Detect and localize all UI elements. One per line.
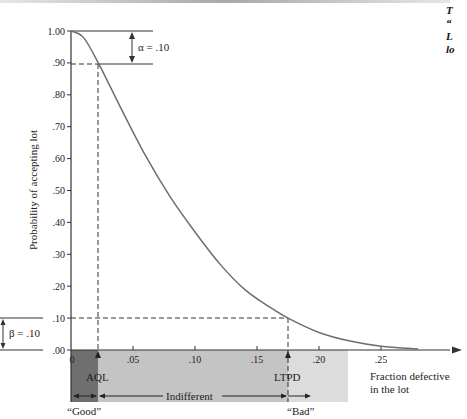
x-tick-label: .05 bbox=[127, 354, 140, 365]
y-tick-label: .80 bbox=[53, 89, 66, 100]
x-tick-label: .25 bbox=[375, 354, 388, 365]
x-tick-label: 0 bbox=[70, 354, 75, 365]
x-axis-arrow-icon bbox=[452, 347, 462, 354]
x-axis-title-line1: Fraction defective bbox=[370, 370, 450, 382]
y-tick-label: .00 bbox=[53, 345, 66, 356]
y-tick-label: .60 bbox=[53, 153, 66, 164]
y-tick-label: .20 bbox=[53, 281, 66, 292]
bad-label: “Bad” bbox=[287, 405, 315, 417]
x-tick-label: .10 bbox=[189, 354, 202, 365]
beta-label: β = .10 bbox=[9, 327, 41, 339]
beta-arrow-down-icon bbox=[1, 343, 6, 349]
y-tick-label: .90 bbox=[53, 57, 66, 68]
good-label: “Good” bbox=[67, 405, 101, 417]
x-tick-label: .20 bbox=[313, 354, 326, 365]
y-tick-label: .40 bbox=[53, 217, 66, 228]
alpha-arrow-up-icon bbox=[129, 32, 135, 39]
y-axis-title: Probability of accepting lot bbox=[27, 130, 39, 250]
y-tick-label: 1.00 bbox=[48, 26, 66, 37]
x-axis-title-line2: in the lot bbox=[370, 383, 409, 395]
oc-curve bbox=[71, 31, 418, 349]
y-tick-label: .70 bbox=[53, 121, 66, 132]
y-tick-label: .30 bbox=[53, 249, 66, 260]
aql-label: AQL bbox=[86, 371, 109, 383]
y-tick-label: .10 bbox=[53, 313, 66, 324]
alpha-label: α = .10 bbox=[138, 41, 170, 53]
ltpd-label: LTPD bbox=[274, 371, 301, 383]
y-tick-label: .50 bbox=[53, 185, 66, 196]
beta-arrow-up-icon bbox=[1, 319, 6, 325]
indifferent-label: Indifferent bbox=[166, 390, 213, 402]
y-axis-ticks: .00.10.20.30.40.50.60.70.80.901.00 bbox=[48, 26, 72, 356]
x-tick-label: .15 bbox=[251, 354, 264, 365]
oc-curve-chart: .00.10.20.30.40.50.60.70.80.901.00 0.05.… bbox=[0, 0, 467, 419]
alpha-arrow-down-icon bbox=[129, 56, 135, 63]
